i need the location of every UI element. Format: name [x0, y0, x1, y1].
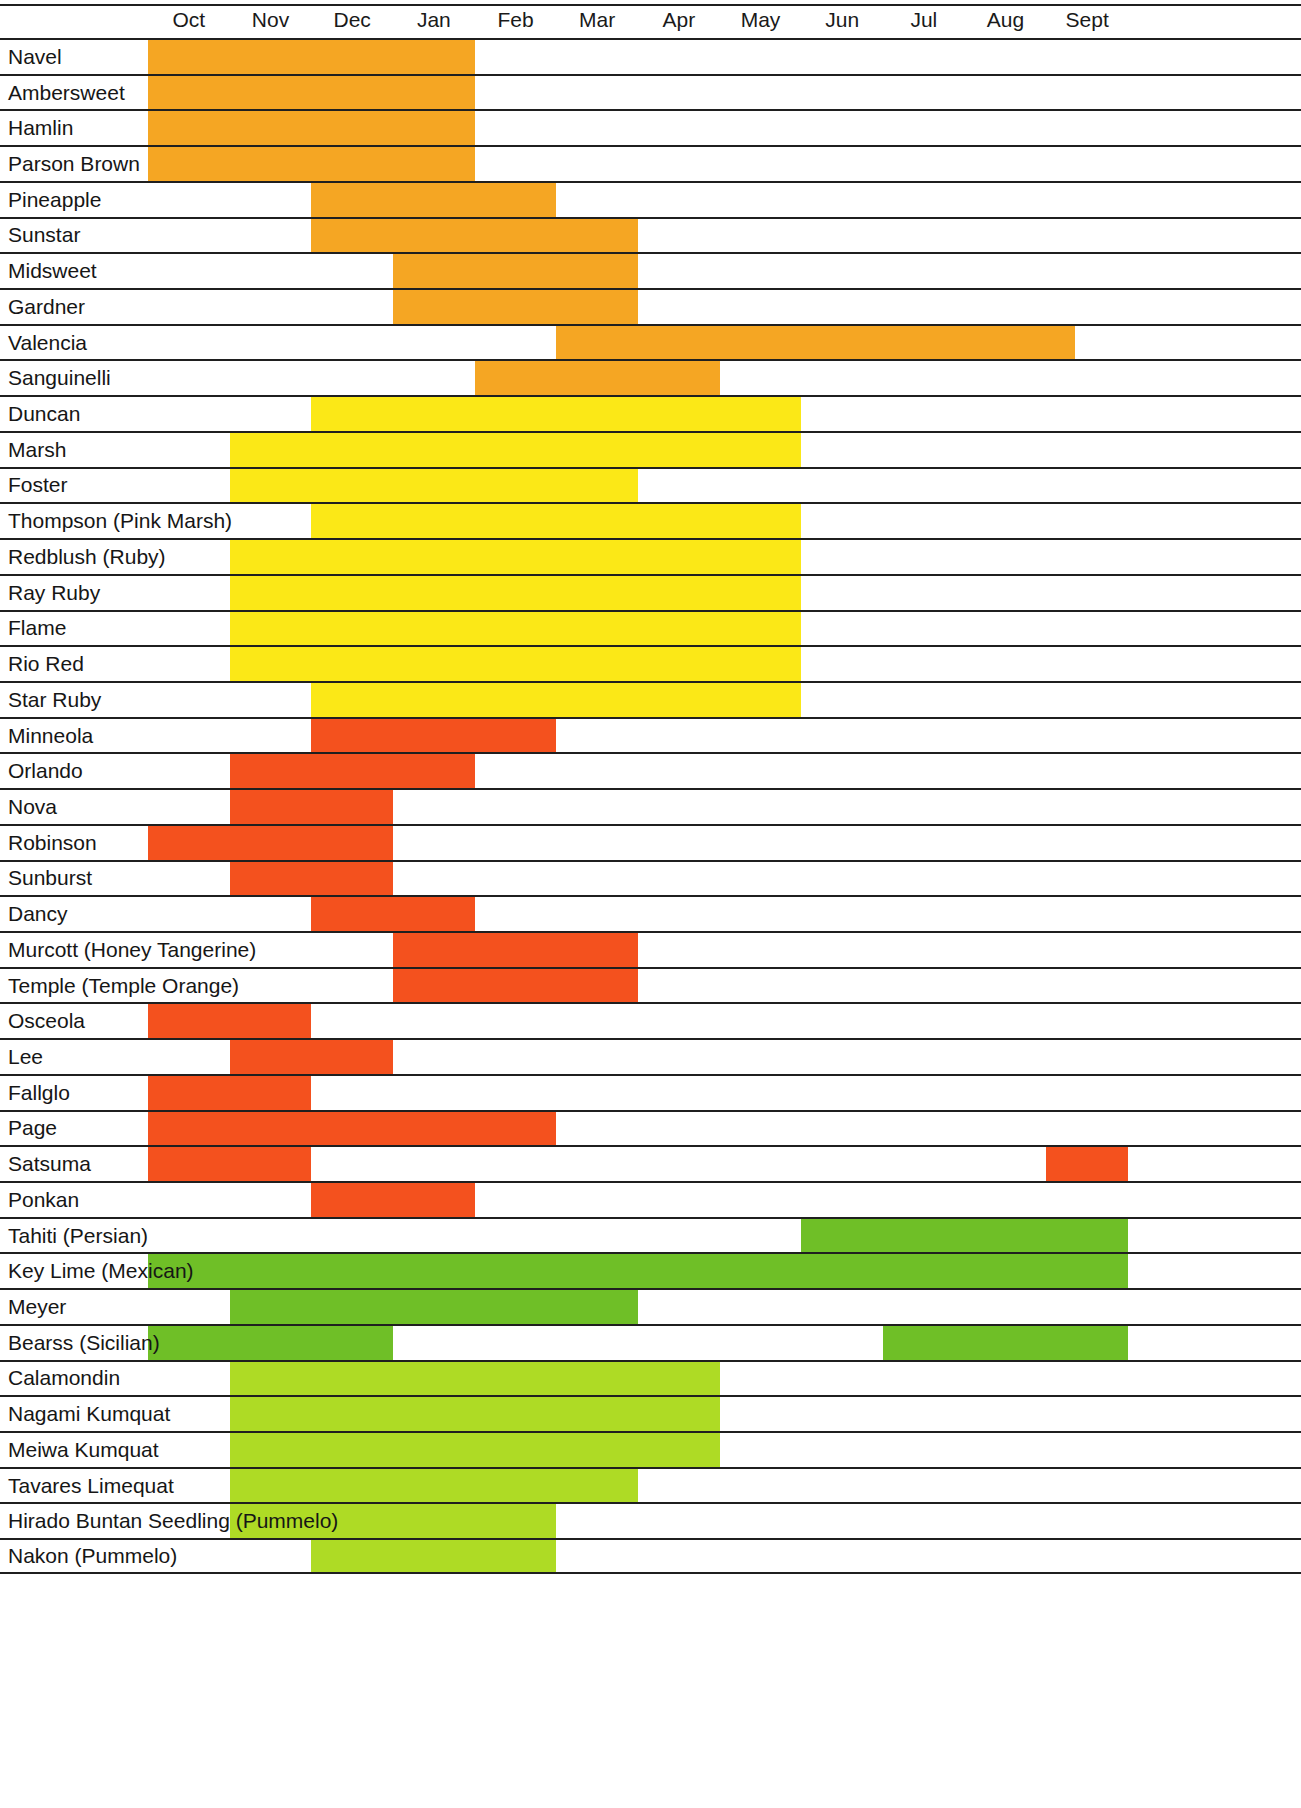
harvest-bars	[0, 397, 1301, 431]
month-header-jun: Jun	[801, 8, 883, 32]
harvest-bar	[311, 683, 801, 717]
table-row[interactable]: Star Ruby	[0, 681, 1301, 717]
table-row[interactable]: Meiwa Kumquat	[0, 1431, 1301, 1467]
harvest-bar	[148, 1112, 556, 1146]
harvest-bar	[148, 1254, 1128, 1288]
variety-label: Orlando	[8, 759, 83, 783]
table-row[interactable]: Tahiti (Persian)	[0, 1217, 1301, 1253]
harvest-bar	[230, 1040, 393, 1074]
harvest-bar	[148, 826, 393, 860]
variety-label: Key Lime (Mexican)	[8, 1259, 194, 1283]
variety-label: Parson Brown	[8, 152, 140, 176]
table-row[interactable]: Thompson (Pink Marsh)	[0, 502, 1301, 538]
harvest-bar	[230, 433, 802, 467]
harvest-bars	[0, 576, 1301, 610]
table-row[interactable]: Robinson	[0, 824, 1301, 860]
table-row[interactable]: Ponkan	[0, 1181, 1301, 1217]
table-row[interactable]: Meyer	[0, 1288, 1301, 1324]
harvest-bars	[0, 1362, 1301, 1396]
table-row[interactable]: Nakon (Pummelo)	[0, 1538, 1301, 1574]
harvest-bar	[148, 76, 475, 110]
harvest-bar	[311, 719, 556, 753]
variety-label: Ray Ruby	[8, 581, 100, 605]
harvest-bar	[556, 326, 1075, 360]
variety-label: Lee	[8, 1045, 43, 1069]
table-row[interactable]: Bearss (Sicilian)	[0, 1324, 1301, 1360]
table-row[interactable]: Hirado Buntan Seedling (Pummelo)	[0, 1502, 1301, 1538]
table-row[interactable]: Marsh	[0, 431, 1301, 467]
table-row[interactable]: Minneola	[0, 717, 1301, 753]
month-header-aug: Aug	[965, 8, 1047, 32]
table-row[interactable]: Sunstar	[0, 217, 1301, 253]
table-row[interactable]: Lee	[0, 1038, 1301, 1074]
table-row[interactable]: Midsweet	[0, 252, 1301, 288]
variety-label: Calamondin	[8, 1366, 120, 1390]
harvest-bar	[230, 469, 638, 503]
harvest-bars	[0, 862, 1301, 896]
variety-label: Sunstar	[8, 223, 80, 247]
table-row[interactable]: Pineapple	[0, 181, 1301, 217]
harvest-bar	[148, 111, 475, 145]
table-row[interactable]: Murcott (Honey Tangerine)	[0, 931, 1301, 967]
table-row[interactable]: Nova	[0, 788, 1301, 824]
table-row[interactable]: Calamondin	[0, 1360, 1301, 1396]
variety-label: Hirado Buntan Seedling (Pummelo)	[8, 1509, 338, 1533]
table-row[interactable]: Orlando	[0, 752, 1301, 788]
harvest-bars	[0, 433, 1301, 467]
table-row[interactable]: Fallglo	[0, 1074, 1301, 1110]
harvest-bars	[0, 897, 1301, 931]
harvest-bars	[0, 290, 1301, 324]
harvest-bars	[0, 1290, 1301, 1324]
harvest-bars	[0, 647, 1301, 681]
table-row[interactable]: Page	[0, 1110, 1301, 1146]
harvest-bars	[0, 683, 1301, 717]
table-row[interactable]: Parson Brown	[0, 145, 1301, 181]
harvest-bar	[148, 1147, 311, 1181]
harvest-bars	[0, 612, 1301, 646]
table-row[interactable]: Duncan	[0, 395, 1301, 431]
variety-label: Temple (Temple Orange)	[8, 974, 239, 998]
variety-label: Flame	[8, 616, 66, 640]
table-row[interactable]: Sanguinelli	[0, 359, 1301, 395]
harvest-bar	[883, 1326, 1128, 1360]
variety-label: Robinson	[8, 831, 97, 855]
variety-label: Tahiti (Persian)	[8, 1224, 148, 1248]
variety-label: Dancy	[8, 902, 68, 926]
variety-label: Page	[8, 1116, 57, 1140]
table-row[interactable]: Ambersweet	[0, 74, 1301, 110]
table-row[interactable]: Navel	[0, 38, 1301, 74]
table-row[interactable]: Gardner	[0, 288, 1301, 324]
month-header-nov: Nov	[230, 8, 312, 32]
harvest-bar	[148, 1326, 393, 1360]
harvest-bars	[0, 1076, 1301, 1110]
table-row[interactable]: Dancy	[0, 895, 1301, 931]
variety-label: Fallglo	[8, 1081, 70, 1105]
month-header-apr: Apr	[638, 8, 720, 32]
harvest-bar	[230, 1362, 720, 1396]
harvest-bar	[230, 790, 393, 824]
table-row[interactable]: Redblush (Ruby)	[0, 538, 1301, 574]
table-row[interactable]: Sunburst	[0, 860, 1301, 896]
harvest-bars	[0, 254, 1301, 288]
table-row[interactable]: Rio Red	[0, 645, 1301, 681]
table-row[interactable]: Foster	[0, 467, 1301, 503]
table-row[interactable]: Temple (Temple Orange)	[0, 967, 1301, 1003]
table-row[interactable]: Osceola	[0, 1002, 1301, 1038]
harvest-bar	[230, 647, 802, 681]
harvest-bars	[0, 219, 1301, 253]
harvest-bar	[311, 1183, 474, 1217]
harvest-bar	[230, 540, 802, 574]
harvest-bar	[230, 612, 802, 646]
variety-label: Thompson (Pink Marsh)	[8, 509, 232, 533]
table-row[interactable]: Valencia	[0, 324, 1301, 360]
harvest-bar	[148, 1004, 311, 1038]
table-row[interactable]: Ray Ruby	[0, 574, 1301, 610]
harvest-bars	[0, 1540, 1301, 1572]
table-row[interactable]: Tavares Limequat	[0, 1467, 1301, 1503]
table-row[interactable]: Hamlin	[0, 109, 1301, 145]
table-row[interactable]: Nagami Kumquat	[0, 1395, 1301, 1431]
table-row[interactable]: Key Lime (Mexican)	[0, 1252, 1301, 1288]
table-row[interactable]: Flame	[0, 610, 1301, 646]
table-row[interactable]: Satsuma	[0, 1145, 1301, 1181]
harvest-bars	[0, 540, 1301, 574]
